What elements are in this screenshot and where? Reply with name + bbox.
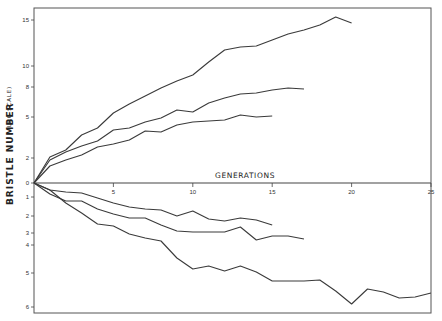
y-tick-label: 15 (22, 17, 29, 23)
y-tick-label: 3 (26, 230, 30, 236)
y-tick-label: 2 (26, 155, 30, 161)
series-line-up-1 (34, 88, 304, 183)
y-tick-label: 4 (26, 242, 30, 248)
y-tick-label: 1 (26, 194, 30, 200)
x-tick-label: 5 (112, 189, 116, 195)
x-axis-ticks: 510152025 (112, 183, 435, 195)
series-line-down-3 (34, 183, 272, 225)
x-tick-label: 10 (189, 189, 196, 195)
y-tick-label: 5 (26, 270, 30, 276)
plot-frame (34, 8, 431, 313)
series-line-down-4 (34, 183, 304, 240)
y-tick-label: 10 (22, 63, 29, 69)
y-tick-label: 6 (26, 304, 30, 310)
series-lines (34, 17, 431, 304)
y-tick-label: 2 (26, 213, 30, 219)
y-axis-ticks: 15108520123456 (22, 17, 34, 310)
y-tick-label: 0 (26, 180, 30, 186)
x-tick-label: 15 (269, 189, 276, 195)
y-tick-label: 8 (26, 84, 30, 90)
x-tick-label: 20 (348, 189, 355, 195)
bristle-number-chart: 510152025 15108520123456 GENERATIONS BRI… (0, 0, 442, 321)
series-line-up-0 (34, 17, 352, 183)
x-axis-title: GENERATIONS (215, 171, 275, 180)
y-axis-scale-note: (LOG SCALE) (6, 86, 12, 130)
y-tick-label: 5 (26, 114, 30, 120)
series-line-down-5 (34, 183, 431, 304)
x-tick-label: 25 (428, 189, 435, 195)
